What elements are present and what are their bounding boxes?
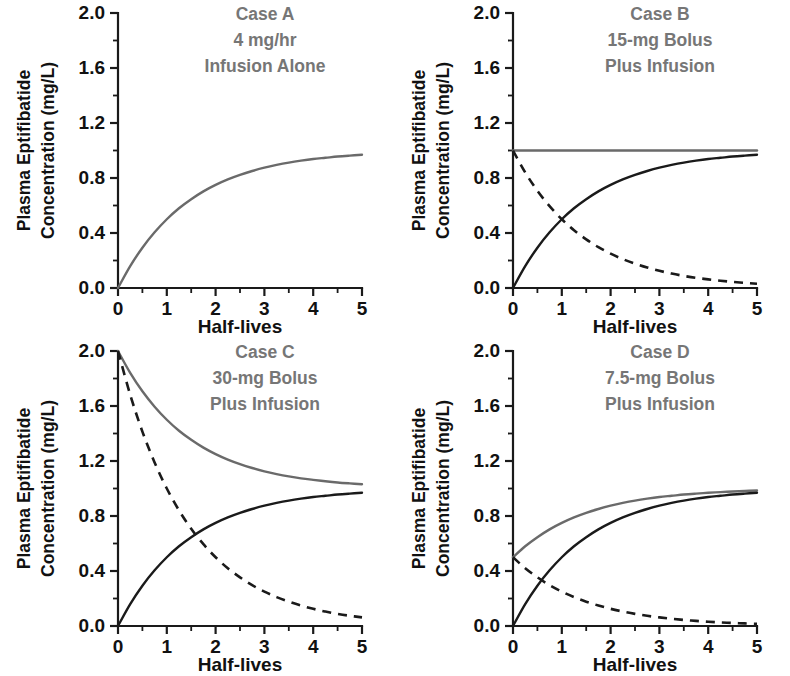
- panel-case-a: 0.00.40.81.21.62.0012345Half-livesPlasma…: [0, 0, 395, 338]
- x-tick-label: 0: [508, 636, 519, 657]
- y-tick-label: 0.0: [79, 615, 105, 636]
- y-tick-label: 2.0: [79, 340, 105, 361]
- plot-area-case-b: 0.00.40.81.21.62.0012345Half-livesPlasma…: [395, 0, 790, 338]
- x-tick-label: 4: [308, 298, 319, 319]
- x-tick-label: 1: [162, 636, 173, 657]
- y-tick-label: 1.2: [474, 112, 500, 133]
- four-panel-pharmacokinetic-figure: 0.00.40.81.21.62.0012345Half-livesPlasma…: [0, 0, 790, 676]
- x-axis-title: Half-lives: [198, 316, 282, 337]
- x-tick-label: 4: [703, 636, 714, 657]
- curve-bolus-component: [118, 351, 362, 617]
- x-tick-label: 4: [308, 636, 319, 657]
- y-tick-label: 0.0: [474, 277, 500, 298]
- x-tick-label: 0: [113, 636, 124, 657]
- panel-title-group: Case A4 mg/hrInfusion Alone: [205, 4, 326, 76]
- curve-infusion-component: [513, 493, 757, 626]
- y-tick-label: 0.8: [474, 167, 500, 188]
- axis-lines: [118, 351, 362, 626]
- x-tick-label: 5: [357, 636, 368, 657]
- curve-bolus-component: [513, 151, 757, 284]
- y-tick-label: 1.6: [79, 57, 105, 78]
- curve-total-plasma-concentration: [118, 155, 362, 288]
- y-tick-label: 0.0: [474, 615, 500, 636]
- plot-area-case-a: 0.00.40.81.21.62.0012345Half-livesPlasma…: [0, 0, 395, 338]
- tick-labels-group: 0.00.40.81.21.62.0012345: [79, 2, 368, 319]
- y-tick-label: 1.6: [79, 395, 105, 416]
- curve-infusion-component: [513, 155, 757, 288]
- panel-title-line-2: 4 mg/hr: [233, 30, 296, 50]
- y-tick-label: 2.0: [474, 340, 500, 361]
- y-tick-label: 0.8: [79, 167, 105, 188]
- y-axis-title-line2: Concentration (mg/L): [433, 62, 453, 239]
- y-tick-label: 1.2: [474, 450, 500, 471]
- panel-title-line-3: Plus Infusion: [210, 394, 320, 414]
- curves-group: [513, 491, 757, 626]
- y-tick-label: 0.4: [474, 560, 501, 581]
- panel-title-line-2: 7.5-mg Bolus: [605, 368, 715, 388]
- curves-group: [513, 151, 757, 289]
- y-tick-label: 0.8: [474, 505, 500, 526]
- panel-title-line-2: 30-mg Bolus: [212, 368, 317, 388]
- curve-total-plasma-concentration: [513, 491, 757, 558]
- axis-lines: [513, 351, 757, 626]
- x-tick-label: 1: [162, 298, 173, 319]
- x-tick-label: 4: [703, 298, 714, 319]
- panel-title-group: Case B15-mg BolusPlus Infusion: [605, 4, 715, 76]
- y-tick-label: 2.0: [474, 2, 500, 23]
- curves-group: [118, 351, 362, 626]
- panel-title-line-1: Case A: [236, 4, 295, 24]
- y-axis-title-line2: Concentration (mg/L): [433, 400, 453, 577]
- axis-lines: [118, 13, 362, 288]
- y-axis-title-line1: Plasma Eptifibatide: [409, 408, 429, 570]
- panel-title-line-1: Case C: [235, 342, 295, 362]
- y-tick-label: 2.0: [79, 2, 105, 23]
- x-axis-title: Half-lives: [593, 316, 677, 337]
- y-axis-title-line1: Plasma Eptifibatide: [14, 70, 34, 232]
- curve-infusion-component: [118, 493, 362, 626]
- panel-title-line-3: Plus Infusion: [605, 394, 715, 414]
- y-axis-title-line2: Concentration (mg/L): [38, 62, 58, 239]
- x-axis-title: Half-lives: [593, 654, 677, 675]
- y-tick-label: 0.0: [79, 277, 105, 298]
- panel-case-c: 0.00.40.81.21.62.0012345Half-livesPlasma…: [0, 338, 395, 676]
- x-tick-label: 1: [557, 636, 568, 657]
- x-tick-label: 1: [557, 298, 568, 319]
- panel-title-line-3: Infusion Alone: [205, 56, 326, 76]
- y-tick-label: 1.2: [79, 112, 105, 133]
- panel-case-d: 0.00.40.81.21.62.0012345Half-livesPlasma…: [395, 338, 790, 676]
- x-tick-label: 0: [113, 298, 124, 319]
- panel-title-line-1: Case B: [630, 4, 689, 24]
- y-tick-label: 1.6: [474, 57, 500, 78]
- y-tick-label: 0.4: [79, 560, 106, 581]
- panel-title-line-2: 15-mg Bolus: [607, 30, 712, 50]
- panel-case-b: 0.00.40.81.21.62.0012345Half-livesPlasma…: [395, 0, 790, 338]
- y-axis-title-line1: Plasma Eptifibatide: [409, 70, 429, 232]
- curves-group: [118, 155, 362, 288]
- x-tick-label: 5: [357, 298, 368, 319]
- panel-title-group: Case D7.5-mg BolusPlus Infusion: [605, 342, 715, 414]
- curve-bolus-component: [513, 557, 757, 624]
- panel-title-line-1: Case D: [630, 342, 689, 362]
- plot-area-case-c: 0.00.40.81.21.62.0012345Half-livesPlasma…: [0, 338, 395, 676]
- plot-area-case-d: 0.00.40.81.21.62.0012345Half-livesPlasma…: [395, 338, 790, 676]
- panel-title-line-3: Plus Infusion: [605, 56, 715, 76]
- y-tick-label: 1.2: [79, 450, 105, 471]
- x-axis-title: Half-lives: [198, 654, 282, 675]
- y-axis-title-line2: Concentration (mg/L): [38, 400, 58, 577]
- x-tick-label: 5: [752, 298, 763, 319]
- panel-title-group: Case C30-mg BolusPlus Infusion: [210, 342, 320, 414]
- x-tick-label: 0: [508, 298, 519, 319]
- x-tick-label: 5: [752, 636, 763, 657]
- y-tick-label: 0.4: [474, 222, 501, 243]
- y-axis-title-line1: Plasma Eptifibatide: [14, 408, 34, 570]
- y-tick-label: 0.4: [79, 222, 106, 243]
- y-tick-label: 0.8: [79, 505, 105, 526]
- y-tick-label: 1.6: [474, 395, 500, 416]
